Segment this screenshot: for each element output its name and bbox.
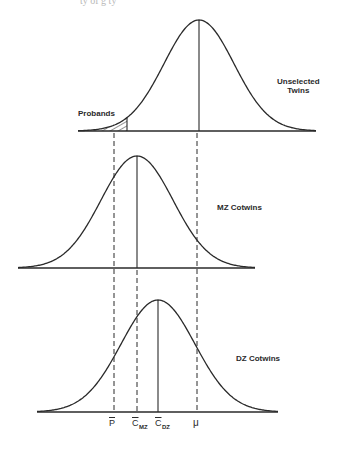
- normal-distribution-diagram: [0, 0, 337, 453]
- p-bar-axis-label: P: [109, 418, 115, 428]
- probands-label: Probands: [78, 109, 115, 118]
- c-dz-axis-label: CDZ: [155, 418, 170, 432]
- mu-axis-label: μ: [193, 418, 199, 428]
- c-dz-subscript: DZ: [162, 424, 170, 430]
- mz-cotwins-label: MZ Cotwins: [217, 203, 262, 212]
- c-mz-axis-label: CMZ: [132, 418, 148, 432]
- dashed-reference-lines: [114, 133, 197, 412]
- c-dz-symbol: C: [155, 418, 162, 428]
- unselected-label-line2: Twins: [277, 86, 320, 95]
- mz-cotwins-panel: [18, 156, 255, 268]
- c-mz-symbol: C: [132, 418, 139, 428]
- unselected-label-line1: Unselected: [277, 77, 320, 86]
- unselected-twins-label: Unselected Twins: [277, 77, 320, 95]
- p-bar-symbol: P: [109, 418, 115, 428]
- mu-symbol: μ: [193, 417, 199, 428]
- dz-cotwins-label: DZ Cotwins: [236, 354, 280, 363]
- c-mz-subscript: MZ: [139, 424, 148, 430]
